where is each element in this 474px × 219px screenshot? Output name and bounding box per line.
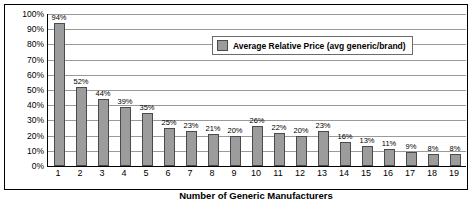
chart-container: Average Relative Price per Dose 0%10%20%… xyxy=(0,0,474,219)
x-axis-tick-label: 3 xyxy=(91,168,113,184)
bar-slot: 52% xyxy=(70,14,92,166)
bar-value-label: 26% xyxy=(249,116,264,125)
x-axis-tick-label: 10 xyxy=(245,168,267,184)
y-axis-tick-label: 80% xyxy=(14,39,44,49)
legend-label: Average Relative Price (avg generic/bran… xyxy=(233,41,406,51)
bar xyxy=(274,133,285,166)
y-axis-tick-label: 10% xyxy=(14,146,44,156)
bar-slot: 94% xyxy=(48,14,70,166)
x-axis-tick-label: 12 xyxy=(289,168,311,184)
bar-value-label: 52% xyxy=(73,77,88,86)
bar-value-label: 35% xyxy=(139,103,154,112)
bar xyxy=(428,154,439,166)
y-axis-tick-label: 70% xyxy=(14,55,44,65)
bar-value-label: 25% xyxy=(161,118,176,127)
x-axis-tick-label: 5 xyxy=(135,168,157,184)
bar xyxy=(362,146,373,166)
bar-slot: 8% xyxy=(444,14,466,166)
bar-value-label: 16% xyxy=(337,132,352,141)
bar xyxy=(208,134,219,166)
x-axis-tick-label: 16 xyxy=(377,168,399,184)
x-axis-tick-labels: 12345678910111213141516171819 xyxy=(47,168,465,184)
y-axis-tick-label: 100% xyxy=(14,9,44,19)
bar xyxy=(450,154,461,166)
bar xyxy=(252,126,263,166)
bar-slot: 25% xyxy=(158,14,180,166)
x-axis-tick-label: 11 xyxy=(267,168,289,184)
bar-slot: 44% xyxy=(92,14,114,166)
bar-value-label: 94% xyxy=(51,13,66,22)
bar xyxy=(76,87,87,166)
bar-value-label: 22% xyxy=(271,123,286,132)
bar xyxy=(120,107,131,166)
bar-value-label: 20% xyxy=(227,126,242,135)
x-axis-title: Number of Generic Manufacturers xyxy=(47,190,465,201)
x-axis-tick-label: 4 xyxy=(113,168,135,184)
y-axis-tick-label: 90% xyxy=(14,24,44,34)
legend-swatch-icon xyxy=(217,40,228,51)
bar xyxy=(296,136,307,166)
bar-value-label: 20% xyxy=(293,126,308,135)
chart-legend: Average Relative Price (avg generic/bran… xyxy=(212,36,413,55)
y-axis-title: Average Relative Price per Dose xyxy=(0,0,12,14)
x-axis-tick-label: 8 xyxy=(201,168,223,184)
bar xyxy=(384,149,395,166)
x-axis-tick-label: 2 xyxy=(69,168,91,184)
x-axis-tick-label: 18 xyxy=(421,168,443,184)
x-axis-tick-label: 1 xyxy=(47,168,69,184)
bar xyxy=(340,142,351,166)
bar xyxy=(230,136,241,166)
bar xyxy=(406,152,417,166)
x-axis-tick-label: 9 xyxy=(223,168,245,184)
x-axis-tick-label: 17 xyxy=(399,168,421,184)
x-axis-tick-label: 19 xyxy=(443,168,465,184)
y-axis-tick-label: 50% xyxy=(14,85,44,95)
bar-slot: 8% xyxy=(422,14,444,166)
bar-value-label: 8% xyxy=(450,144,461,153)
x-axis-tick-label: 7 xyxy=(179,168,201,184)
y-axis-tick-label: 40% xyxy=(14,100,44,110)
bar-value-label: 39% xyxy=(117,97,132,106)
bar-value-label: 13% xyxy=(359,136,374,145)
bar-value-label: 44% xyxy=(95,89,110,98)
bar xyxy=(98,99,109,166)
y-axis-tick-label: 30% xyxy=(14,115,44,125)
y-axis-tick-label: 60% xyxy=(14,70,44,80)
bar-slot: 39% xyxy=(114,14,136,166)
y-axis-tick-label: 20% xyxy=(14,131,44,141)
x-axis-tick-label: 15 xyxy=(355,168,377,184)
bar-value-label: 21% xyxy=(205,124,220,133)
bar-slot: 35% xyxy=(136,14,158,166)
x-axis-tick-label: 14 xyxy=(333,168,355,184)
bar-value-label: 8% xyxy=(428,144,439,153)
x-axis-tick-label: 13 xyxy=(311,168,333,184)
bar-value-label: 9% xyxy=(406,142,417,151)
bar-value-label: 23% xyxy=(183,121,198,130)
bar xyxy=(164,128,175,166)
bar-value-label: 23% xyxy=(315,121,330,130)
y-axis-tick-labels: 0%10%20%30%40%50%60%70%80%90%100% xyxy=(14,14,44,166)
bar-value-label: 11% xyxy=(382,139,396,148)
bar xyxy=(54,23,65,166)
y-axis-tick-label: 0% xyxy=(14,161,44,171)
x-axis-tick-label: 6 xyxy=(157,168,179,184)
bar-slot: 23% xyxy=(180,14,202,166)
bar xyxy=(142,113,153,166)
bar xyxy=(186,131,197,166)
bar xyxy=(318,131,329,166)
